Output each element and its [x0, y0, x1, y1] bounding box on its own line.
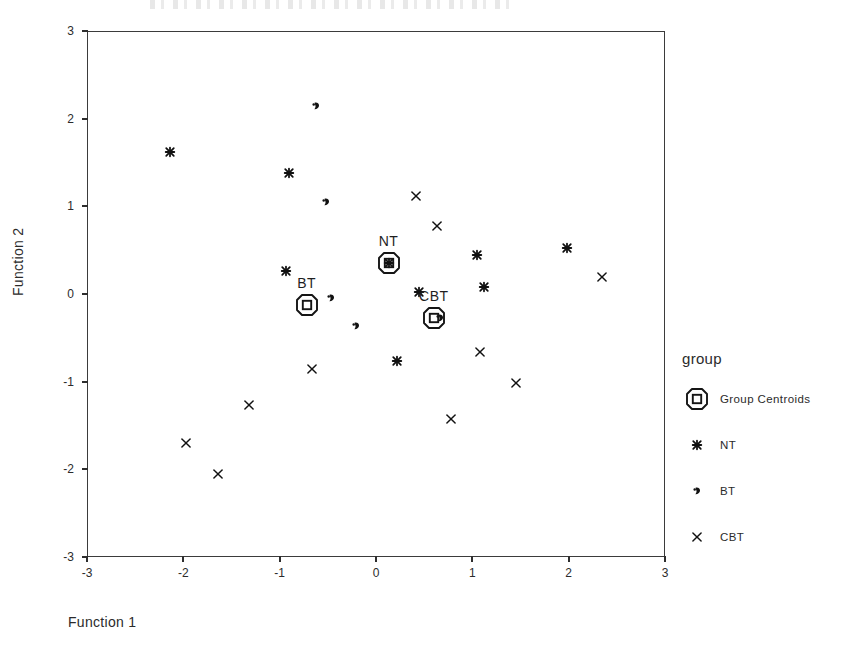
data-point-cbt	[445, 413, 457, 425]
data-point-bt	[311, 101, 321, 111]
x-axis-tick-label: 0	[373, 566, 380, 580]
data-point-cbt	[410, 190, 422, 202]
data-point-nt	[471, 249, 483, 261]
group-centroid-cbt	[421, 305, 447, 331]
data-point-bt	[321, 197, 331, 207]
x-axis-tick-label: 2	[565, 566, 572, 580]
legend-entry-label: CBT	[720, 531, 744, 543]
chart-legend: group Group CentroidsNTBTCBT	[682, 350, 847, 573]
data-point-nt	[391, 355, 403, 367]
data-point-cbt	[306, 363, 318, 375]
x-axis-tick-label: -1	[274, 566, 285, 580]
data-point-bt	[326, 293, 336, 303]
nt-star-marker	[682, 439, 712, 451]
centroid-marker	[682, 386, 712, 412]
data-point-nt	[164, 146, 176, 158]
y-axis-tick-label: 0	[67, 287, 74, 301]
scan-artifact	[150, 0, 510, 9]
cbt-x-marker	[682, 531, 712, 543]
y-axis-tick-label: -1	[63, 375, 74, 389]
x-axis-tick-label: 3	[662, 566, 669, 580]
legend-entry-bt: BT	[682, 481, 847, 501]
data-point-cbt	[431, 220, 443, 232]
legend-entry-cbt: CBT	[682, 527, 847, 547]
group-centroid-nt	[376, 250, 402, 276]
centroid-label-bt: BT	[297, 275, 316, 291]
legend-entry-nt: NT	[682, 435, 847, 455]
data-point-cbt	[474, 346, 486, 358]
y-axis-tick-label: 2	[67, 112, 74, 126]
bt-dot-marker	[682, 486, 712, 496]
legend-entry-label: BT	[720, 485, 736, 497]
centroid-label-cbt: CBT	[419, 288, 449, 304]
legend-entry-label: NT	[720, 439, 736, 451]
data-point-cbt	[596, 271, 608, 283]
x-axis-title: Function 1	[68, 614, 136, 630]
x-axis-tick-label: -2	[178, 566, 189, 580]
centroid-label-nt: NT	[379, 233, 399, 249]
legend-entry-label: Group Centroids	[720, 393, 810, 405]
legend-entry-list: Group CentroidsNTBTCBT	[682, 389, 847, 547]
data-point-nt	[478, 281, 490, 293]
x-axis-tick-label: 1	[469, 566, 476, 580]
x-axis-tick-label: -3	[82, 566, 93, 580]
data-point-nt	[561, 242, 573, 254]
legend-title: group	[682, 350, 847, 367]
data-point-bt	[351, 321, 361, 331]
y-axis-tick-label: 1	[67, 199, 74, 213]
data-point-nt	[283, 167, 295, 179]
data-point-cbt	[510, 377, 522, 389]
scatter-plot-area: NTBTCBT	[87, 31, 665, 557]
data-point-cbt	[212, 468, 224, 480]
legend-entry-group-centroids: Group Centroids	[682, 389, 847, 409]
y-axis-tick-label: -2	[63, 462, 74, 476]
data-point-cbt	[180, 437, 192, 449]
y-axis-tick-label: 3	[67, 24, 74, 38]
data-point-cbt	[243, 399, 255, 411]
y-axis-tick-label: -3	[63, 550, 74, 564]
y-axis-title: Function 2	[10, 228, 26, 296]
data-point-nt	[280, 265, 292, 277]
group-centroid-bt	[294, 292, 320, 318]
